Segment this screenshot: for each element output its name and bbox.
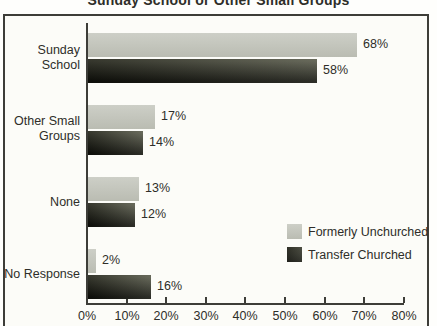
bar-transfer-churched-other-small-groups [88,131,143,155]
bar-transfer-churched-sunday-school [88,59,317,83]
chart-title: Sunday School or Other Small Groups [0,0,437,8]
category-label-line: School [0,58,80,73]
bar-formerly-unchurched-other-small-groups [88,105,155,129]
value-label-transfer-churched-sunday-school: 58% [323,63,348,78]
category-label-line: None [0,195,80,210]
value-label-formerly-unchurched-other-small-groups: 17% [161,109,186,124]
category-label-no-response: No Response [0,267,80,282]
bar-formerly-unchurched-no-response [88,249,96,273]
x-tick-label: 70% [342,309,386,323]
bar-transfer-churched-none [88,203,135,227]
value-label-transfer-churched-other-small-groups: 14% [149,135,174,150]
x-tick-label: 10% [105,309,149,323]
bar-chart-screenshot: Sunday School or Other Small Groups 0%10… [0,0,437,326]
bar-formerly-unchurched-sunday-school [88,33,357,57]
value-label-transfer-churched-no-response: 16% [157,279,182,294]
x-tick [284,297,286,303]
x-tick [403,297,405,303]
category-label-sunday-school: SundaySchool [0,43,80,73]
x-tick-label: 30% [184,309,228,323]
value-label-formerly-unchurched-sunday-school: 68% [363,37,388,52]
value-label-formerly-unchurched-none: 13% [145,181,170,196]
category-label-line: Groups [0,129,80,144]
category-label-line: Sunday [0,43,80,58]
value-label-formerly-unchurched-no-response: 2% [102,253,120,268]
value-label-transfer-churched-none: 12% [141,207,166,222]
x-axis-line [86,303,404,305]
x-tick [205,297,207,303]
category-label-none: None [0,195,80,210]
category-label-line: Other Small [0,114,80,129]
x-tick [165,297,167,303]
transfer-churched-swatch-icon [287,247,302,262]
x-tick-label: 50% [263,309,307,323]
x-tick [363,297,365,303]
category-label-line: No Response [0,267,80,282]
x-tick-label: 40% [223,309,267,323]
x-tick-label: 60% [303,309,347,323]
category-label-other-small-groups: Other SmallGroups [0,114,80,144]
x-tick-label: 20% [144,309,188,323]
formerly-unchurched-swatch-icon [287,224,302,239]
legend-label-formerly-unchurched: Formerly Unchurched [308,225,428,240]
x-tick [324,297,326,303]
x-tick-label: 0% [65,309,109,323]
bar-transfer-churched-no-response [88,275,151,299]
bar-formerly-unchurched-none [88,177,139,201]
x-tick-label: 80% [382,309,426,323]
x-tick [244,297,246,303]
legend-label-transfer-churched: Transfer Churched [308,248,412,263]
